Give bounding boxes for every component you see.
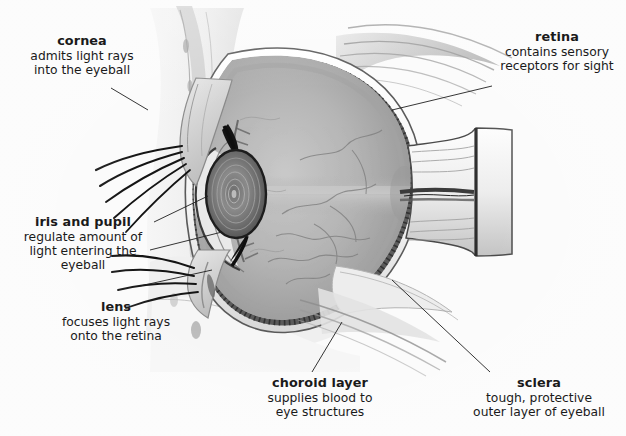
callout-retina-title: retina: [487, 30, 626, 45]
callout-choroid-layer-description: supplies blood to eye structures: [226, 391, 414, 420]
callout-choroid-layer: choroid layer supplies blood to eye stru…: [226, 376, 414, 419]
callout-iris-and-pupil-description: regulate amount of light entering the ey…: [0, 230, 166, 273]
eye-diagram-figure: cornea admits light rays into the eyebal…: [0, 0, 626, 436]
callout-cornea: cornea admits light rays into the eyebal…: [6, 34, 158, 77]
callout-sclera-title: sclera: [452, 376, 626, 391]
callout-iris-and-pupil-title: iris and pupil: [0, 215, 166, 230]
callout-sclera: sclera tough, protective outer layer of …: [452, 376, 626, 419]
callout-cornea-description: admits light rays into the eyeball: [6, 49, 158, 78]
callout-iris-and-pupil: iris and pupil regulate amount of light …: [0, 215, 166, 273]
callout-retina-description: contains sensory receptors for sight: [487, 45, 626, 74]
callout-lens: lens focuses light rays onto the retina: [42, 300, 190, 343]
callout-retina: retina contains sensory receptors for si…: [487, 30, 626, 73]
callout-cornea-title: cornea: [6, 34, 158, 49]
callout-sclera-description: tough, protective outer layer of eyeball: [452, 391, 626, 420]
callout-lens-title: lens: [42, 300, 190, 315]
callout-lens-description: focuses light rays onto the retina: [42, 315, 190, 344]
callout-choroid-layer-title: choroid layer: [226, 376, 414, 391]
